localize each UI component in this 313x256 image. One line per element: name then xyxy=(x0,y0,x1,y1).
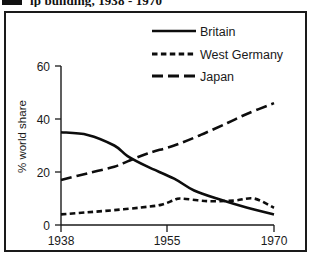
series-line-japan xyxy=(61,103,274,180)
legend-label-britain: Britain xyxy=(200,25,235,39)
chart-legend: Britain West Germany Japan xyxy=(152,25,284,84)
legend-label-west-germany: West Germany xyxy=(200,48,284,62)
y-axis-title: % world share xyxy=(16,100,28,173)
legend-item-japan[interactable]: Japan xyxy=(152,70,234,84)
x-tick-label-1970: 1970 xyxy=(261,234,288,248)
line-chart: Britain West Germany Japan 60 40 20 0 xyxy=(6,13,305,250)
legend-item-britain[interactable]: Britain xyxy=(152,25,235,39)
y-tick-label-20: 20 xyxy=(37,166,51,180)
x-axis: 1938 1955 1970 xyxy=(48,225,288,248)
y-tick-label-60: 60 xyxy=(37,60,51,74)
figure-frame: Britain West Germany Japan 60 40 20 0 xyxy=(4,11,307,252)
chart-title-bar: ip building, 1938 - 1970 xyxy=(0,0,313,7)
y-tick-label-40: 40 xyxy=(37,113,51,127)
y-axis: 60 40 20 0 % world share xyxy=(16,60,61,233)
black-square-bullet-icon xyxy=(2,0,22,5)
x-tick-label-1938: 1938 xyxy=(48,234,75,248)
x-tick-label-1955: 1955 xyxy=(154,234,181,248)
legend-item-west-germany[interactable]: West Germany xyxy=(152,48,284,62)
series-group xyxy=(61,103,274,214)
legend-label-japan: Japan xyxy=(200,70,234,84)
page-title: ip building, 1938 - 1970 xyxy=(30,0,162,7)
y-tick-label-0: 0 xyxy=(43,219,50,233)
